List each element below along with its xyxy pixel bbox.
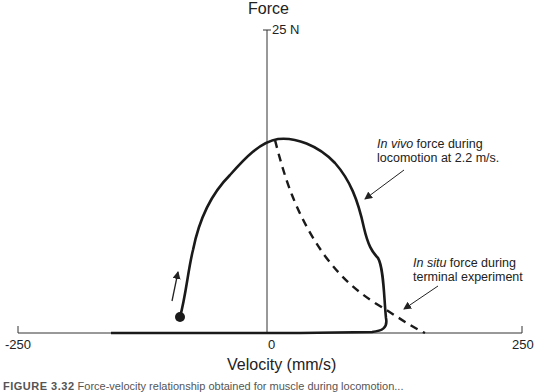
in-situ-line1: force during: [446, 256, 515, 270]
in-vivo-force-curve: [111, 139, 386, 333]
x-axis-title: Velocity (mm/s): [227, 356, 336, 374]
plot-area: [0, 0, 539, 392]
in-vivo-line1: force during: [413, 137, 482, 151]
in-vivo-annotation-arrow: [365, 170, 404, 199]
in-vivo-line2: locomotion at 2.2 m/s.: [377, 151, 499, 165]
x-axis-min-label: -250: [5, 337, 31, 352]
in-situ-force-curve: [275, 140, 425, 333]
x-axis-max-label: 250: [512, 337, 534, 352]
in-vivo-annotation: In vivo force during locomotion at 2.2 m…: [377, 137, 499, 165]
direction-arrow-icon: [172, 272, 178, 301]
caption-text: Force-velocity relationship obtained for…: [75, 380, 404, 392]
figure-caption: FIGURE 3.32 Force-velocity relationship …: [3, 380, 403, 392]
in-situ-annotation-arrow: [404, 286, 438, 309]
start-point-dot: [175, 312, 185, 322]
x-axis-zero-label: 0: [268, 337, 275, 352]
in-vivo-italic: In vivo: [377, 137, 413, 151]
in-situ-italic: In situ: [413, 256, 446, 270]
in-situ-line2: terminal experiment: [413, 270, 523, 284]
caption-label: FIGURE 3.32: [3, 380, 75, 392]
in-situ-annotation: In situ force during terminal experiment: [413, 256, 523, 284]
